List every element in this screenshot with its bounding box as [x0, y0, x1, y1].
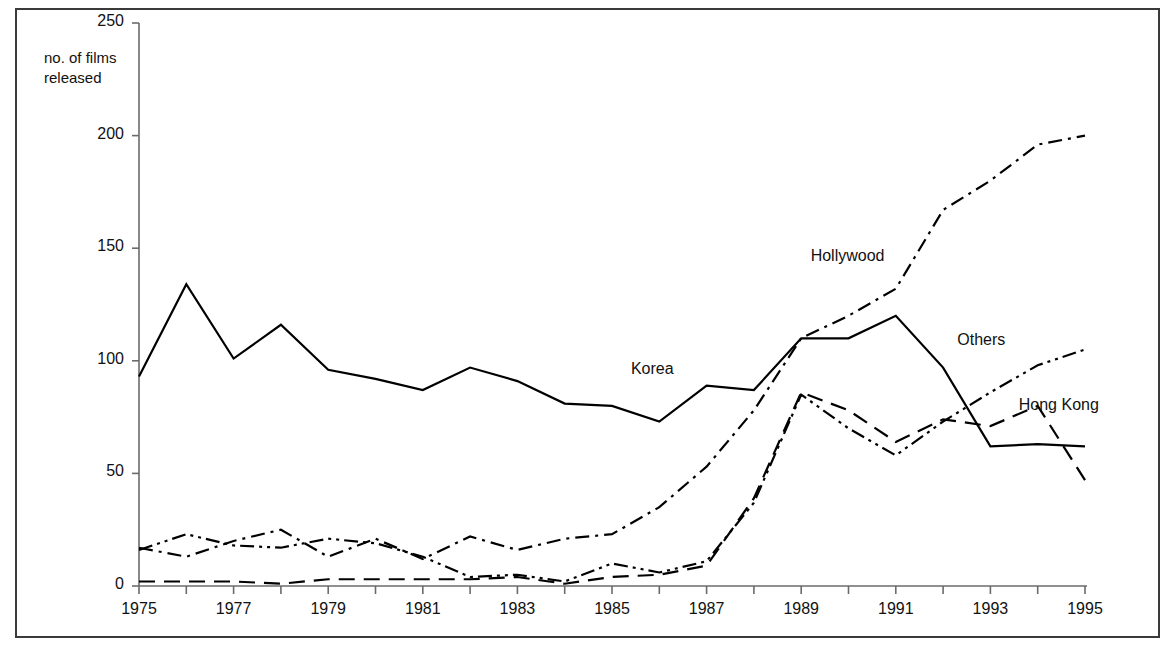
x-tick-label: 1979: [288, 600, 368, 618]
x-tick-label: 1981: [383, 600, 463, 618]
x-tick-label: 1975: [99, 600, 179, 618]
series-label-hollywood: Hollywood: [811, 247, 885, 265]
x-tick-label: 1985: [572, 600, 652, 618]
y-tick-label: 200: [44, 125, 124, 143]
line-chart-svg: [0, 0, 1172, 651]
chart-canvas: no. of films released 050100150200250 19…: [0, 0, 1172, 651]
x-tick-label: 1987: [667, 600, 747, 618]
y-axis-title: no. of films released: [44, 48, 117, 89]
x-tick-label: 1991: [856, 600, 936, 618]
x-tick-label: 1983: [477, 600, 557, 618]
series-layer: [139, 136, 1085, 584]
y-axis-title-line2: released: [44, 68, 117, 88]
series-line-hollywood: [139, 136, 1085, 559]
y-tick-label: 150: [44, 237, 124, 255]
x-tick-label: 1989: [761, 600, 841, 618]
y-tick-label: 100: [44, 350, 124, 368]
x-tick-label: 1995: [1045, 600, 1125, 618]
x-tick-label: 1977: [194, 600, 274, 618]
series-line-others: [139, 350, 1085, 582]
x-tick-label: 1993: [950, 600, 1030, 618]
series-label-korea: Korea: [631, 360, 674, 378]
series-label-hong-kong: Hong Kong: [1019, 396, 1099, 414]
y-tick-label: 50: [44, 462, 124, 480]
y-axis-title-line1: no. of films: [44, 48, 117, 68]
axes-layer: [132, 23, 1087, 594]
y-tick-label: 0: [44, 575, 124, 593]
series-label-others: Others: [957, 331, 1005, 349]
chart-page: no. of films released 050100150200250 19…: [0, 0, 1172, 651]
y-tick-label: 250: [44, 12, 124, 30]
